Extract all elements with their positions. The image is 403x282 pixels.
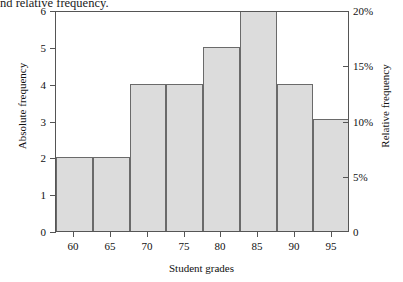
y-axis-label-left: 0 [41,227,51,238]
x-axis-label: 65 [95,240,125,252]
x-axis-label: 80 [205,240,235,252]
x-axis-tick [147,232,148,237]
histogram-bar [93,157,130,231]
x-axis-tick [73,232,74,237]
y-axis-tick-right [343,66,349,67]
x-axis-title: Student grades [0,262,403,274]
x-axis-tick [220,232,221,237]
x-axis-label: 85 [242,240,272,252]
y-axis-label-left: 2 [41,153,51,164]
y-axis-label-left: 3 [41,117,51,128]
figure-caption: nd relative frequency. [0,0,250,10]
plot-area [56,12,348,231]
y-axis-title-left: Absolute frequency [16,36,28,176]
y-axis-label-right: 10% [353,117,373,128]
x-axis-label: 70 [132,240,162,252]
y-axis-tick-left [50,11,56,12]
y-axis-tick-left [50,232,56,233]
x-axis-tick [331,232,332,237]
y-axis-tick-left [50,48,56,49]
x-axis-tick [294,232,295,237]
x-axis-tick [110,232,111,237]
y-axis-tick-right [343,177,349,178]
x-axis-tick [257,232,258,237]
y-axis-tick-right [343,122,349,123]
x-axis-label: 90 [279,240,309,252]
histogram-bar [240,12,277,231]
histogram-bar [130,84,167,231]
y-axis-label-right: 15% [353,61,373,72]
y-axis-label-left: 5 [41,43,51,54]
y-axis-label-right: 20% [353,6,373,17]
y-axis-label-right: 0 [353,227,359,238]
y-axis-label-left: 6 [41,6,51,17]
y-axis-label-left: 4 [41,80,51,91]
plot-frame [55,11,349,232]
histogram-bar [166,84,203,231]
histogram-bar [203,47,240,231]
histogram-bar [313,119,348,231]
y-axis-tick-left [50,85,56,86]
histogram-bar [277,84,314,231]
y-axis-label-left: 1 [41,190,51,201]
y-axis-title-right: Relative frequency [379,36,391,176]
histogram-bar [56,157,93,231]
histogram-figure: nd relative frequency. 0123456 05%10%15%… [0,0,403,282]
x-axis-label: 60 [58,240,88,252]
y-axis-tick-left [50,158,56,159]
y-axis-label-right: 5% [353,172,368,183]
x-axis-label: 75 [169,240,199,252]
y-axis-tick-left [50,122,56,123]
y-axis-tick-left [50,195,56,196]
x-axis-label: 95 [316,240,346,252]
x-axis-tick [184,232,185,237]
